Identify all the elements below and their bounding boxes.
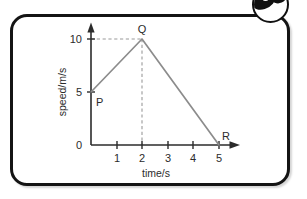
y-axis-arrow-icon	[87, 23, 94, 33]
y-tick-label-5: 5	[76, 86, 82, 98]
x-axis-arrow-icon	[230, 141, 241, 149]
x-tick-label-2: 2	[139, 152, 145, 164]
x-axis-title: time/s	[142, 167, 170, 179]
point-label-q: Q	[138, 23, 147, 35]
point-label-r: R	[222, 130, 230, 142]
point-label-p: P	[96, 96, 103, 108]
x-tick-label-3: 3	[165, 152, 171, 164]
x-tick-label-4: 4	[190, 152, 196, 164]
y-tick-label-10: 10	[70, 33, 82, 45]
page-root: 10 5 0 1 2 3 4 5 P Q R time/s speed/m/s	[0, 0, 307, 199]
speed-time-line	[91, 39, 219, 145]
y-tick-label-0: 0	[76, 139, 82, 151]
y-axis-title: speed/m/s	[56, 68, 68, 116]
speed-time-graph: 10 5 0 1 2 3 4 5 P Q R time/s speed/m/s	[10, 14, 290, 186]
x-tick-label-1: 1	[114, 152, 120, 164]
x-tick-label-5: 5	[216, 152, 222, 164]
